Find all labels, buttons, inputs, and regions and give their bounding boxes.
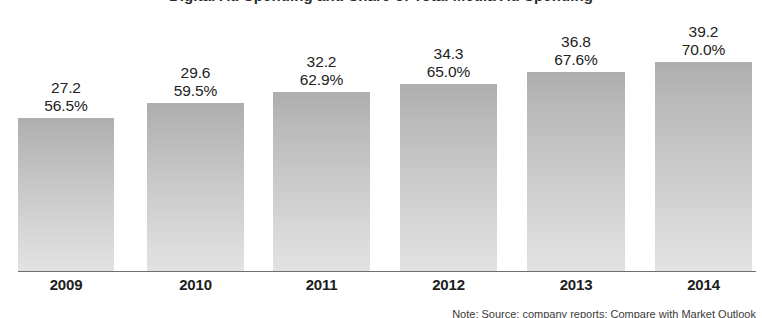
x-axis-label-2013: 2013 <box>527 276 625 293</box>
bar-2014 <box>655 62 752 271</box>
bar-percent-2013: 67.6% <box>527 51 625 69</box>
bar-percent-2010: 59.5% <box>147 82 244 100</box>
x-axis-label-2010: 2010 <box>147 276 244 293</box>
bar-percent-2011: 62.9% <box>273 71 370 89</box>
x-axis-label-2012: 2012 <box>400 276 497 293</box>
x-axis-label-2009: 2009 <box>18 276 114 293</box>
bar-2009 <box>18 118 114 271</box>
bar-2012 <box>400 84 497 271</box>
chart-footnote-cropped: Note: Source: company reports; Compare w… <box>0 308 762 318</box>
x-axis-label-2014: 2014 <box>655 276 752 293</box>
x-axis-line <box>18 271 756 272</box>
bar-2010 <box>147 103 244 271</box>
bar-value-2014: 39.2 <box>655 23 752 41</box>
bar-value-2013: 36.8 <box>527 33 625 51</box>
bar-value-2009: 27.2 <box>18 79 114 97</box>
x-axis-label-2011: 2011 <box>273 276 370 293</box>
bar-percent-2014: 70.0% <box>655 41 752 59</box>
bar-percent-2009: 56.5% <box>18 97 114 115</box>
bar-label-2011: 32.262.9% <box>273 53 370 88</box>
bar-label-2009: 27.256.5% <box>18 79 114 114</box>
bar-label-2010: 29.659.5% <box>147 64 244 99</box>
bar-label-2012: 34.365.0% <box>400 45 497 80</box>
bar-value-2012: 34.3 <box>400 45 497 63</box>
chart-screenshot: Digital Ad Spending and Share of Total M… <box>0 0 762 318</box>
chart-footnote: Note: Source: company reports; Compare w… <box>452 308 756 318</box>
bar-label-2014: 39.270.0% <box>655 23 752 58</box>
bar-2011 <box>273 92 370 271</box>
bar-label-2013: 36.867.6% <box>527 33 625 68</box>
bar-value-2010: 29.6 <box>147 64 244 82</box>
bar-value-2011: 32.2 <box>273 53 370 71</box>
bar-percent-2012: 65.0% <box>400 63 497 81</box>
bar-2013 <box>527 72 625 271</box>
